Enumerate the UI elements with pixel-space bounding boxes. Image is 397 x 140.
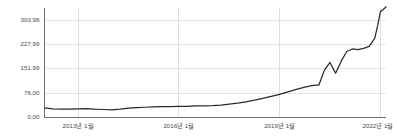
y-tick-label-0: 0,00 [27,113,40,120]
y-axis-tick-labels: 0,0076,00151,99227,99303,98 [21,16,40,120]
y-tick-label-2: 151,99 [21,64,40,71]
line-chart-container: 0,0076,00151,99227,99303,98 2013년 1월2016… [0,0,397,140]
chart-canvas: 0,0076,00151,99227,99303,98 2013년 1월2016… [0,0,397,140]
x-tick-label-2: 2019년 1월 [264,122,295,130]
x-tick-label-1: 2016년 1월 [163,122,194,130]
x-axis-tick-labels: 2013년 1월2016년 1월2019년 1월2022년 1월 [63,122,394,130]
y-tick-label-4: 303,98 [21,16,40,23]
x-tick-label-0: 2013년 1월 [63,122,94,130]
horizontal-gridlines [45,20,387,117]
data-series-line [45,7,387,110]
vertical-gridlines [78,8,380,118]
y-tick-label-1: 76,00 [24,89,40,96]
x-tick-label-3: 2022년 1월 [363,122,394,130]
y-tick-label-3: 227,99 [21,40,40,47]
